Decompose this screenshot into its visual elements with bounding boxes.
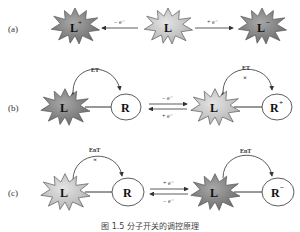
b-reverse-label: + e⁻ <box>162 113 173 119</box>
figure-caption: 图 1.5 分子开关的调控原理 <box>101 221 199 231</box>
blocked-x-icon: × <box>93 156 97 164</box>
star-l-b-left-label: L <box>60 101 68 115</box>
et-arc-right <box>223 69 272 92</box>
ent-arc-left <box>73 156 122 180</box>
star-l-c-left-label: L <box>60 186 68 200</box>
star-l-c-right-label: L <box>210 186 218 200</box>
panel-c-label: (c) <box>8 188 18 198</box>
oxidation-label: − e⁻ <box>114 19 125 25</box>
circle-r-plus-label: R <box>270 101 279 115</box>
circle-r-b-left-label: R <box>121 101 130 115</box>
panel-b: (b) ET L R − e⁻ + e⁻ ET × L R + <box>8 65 292 125</box>
c-reverse-label: − e⁻ <box>163 198 174 204</box>
circle-r-c-left-label: R <box>123 186 132 200</box>
et-label-left: ET <box>91 67 99 73</box>
diagram-canvas: (a) L + − e⁻ L + e⁻ L − (b) ET L R <box>0 0 300 232</box>
panel-a-label: (a) <box>8 24 18 34</box>
b-forward-label: − e⁻ <box>162 95 173 101</box>
panel-a: (a) L + − e⁻ L + e⁻ L − <box>8 8 287 44</box>
blocked-x-icon: × <box>243 74 247 82</box>
circle-r-minus-sup: − <box>280 184 284 192</box>
ent-label-left: EnT <box>89 147 100 153</box>
star-l-plus-label: L <box>70 21 78 35</box>
et-label-right: ET <box>242 65 250 71</box>
reduction-label: + e⁻ <box>207 19 218 25</box>
ent-label-right: EnT <box>240 148 251 154</box>
circle-r-minus-label: R <box>271 186 280 200</box>
star-l-minus-label: L <box>257 21 265 35</box>
c-forward-label: + e⁻ <box>163 180 174 186</box>
ent-arc-right <box>223 155 272 178</box>
star-l-neutral-label: L <box>164 21 172 35</box>
panel-b-label: (b) <box>8 103 19 113</box>
circle-r-plus-sup: + <box>279 99 283 107</box>
star-l-b-right-label: L <box>210 101 218 115</box>
panel-c: (c) EnT × L R + e⁻ − e⁻ EnT L R − <box>8 147 294 210</box>
star-l-plus-sup: + <box>78 19 82 27</box>
star-l-minus-sup: − <box>266 19 270 27</box>
